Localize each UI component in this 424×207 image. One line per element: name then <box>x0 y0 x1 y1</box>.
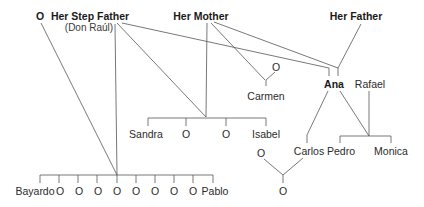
step-sibling-node: O <box>113 186 121 197</box>
half-sibling-node: O <box>182 129 190 140</box>
connector-lines <box>0 0 424 207</box>
pedro-node: Pedro <box>327 146 355 157</box>
step-sibling-node: Pablo <box>202 186 229 197</box>
carmen-node: Carmen <box>247 91 284 102</box>
monica-node: Monica <box>374 146 408 157</box>
father-node: Her Father <box>330 11 383 22</box>
step-sibling-node: O <box>151 186 159 197</box>
step-father-name: (Don Raúl) <box>65 23 113 33</box>
carlos-child-node: O <box>279 186 287 197</box>
step-sibling-node: O <box>56 186 64 197</box>
carlos-partner-node: O <box>257 148 265 159</box>
step-sibling-node: O <box>94 186 102 197</box>
rafael-node: Rafael <box>355 79 385 90</box>
step-sibling-node: O <box>170 186 178 197</box>
family-tree-diagram: O Her Step Father (Don Raúl) Her Mother … <box>0 0 424 207</box>
ana-node: Ana <box>324 79 344 90</box>
unknown-parent-node: O <box>36 11 44 22</box>
mother-node: Her Mother <box>173 11 228 22</box>
step-father-node: Her Step Father <box>51 11 129 22</box>
half-sibling-node: O <box>222 129 230 140</box>
half-sibling-node: Sandra <box>129 129 163 140</box>
carmen-partner-node: O <box>272 62 280 73</box>
step-sibling-node: O <box>75 186 83 197</box>
carlos-node: Carlos <box>294 146 324 157</box>
step-sibling-node: Bayardo <box>15 186 54 197</box>
half-sibling-node: Isabel <box>252 129 280 140</box>
step-sibling-node: O <box>132 186 140 197</box>
step-sibling-node: O <box>189 186 197 197</box>
